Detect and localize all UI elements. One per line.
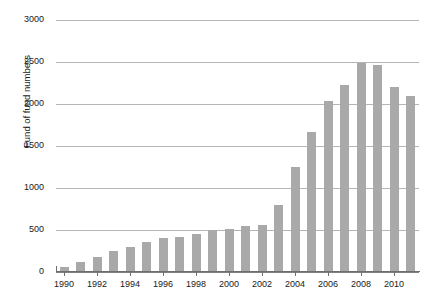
- bar: [274, 205, 283, 272]
- bar: [307, 132, 316, 272]
- x-axis-tick-label: 2004: [285, 279, 305, 289]
- bar: [406, 96, 415, 272]
- x-axis-tick-mark: [97, 272, 98, 276]
- x-axis-tick-mark: [394, 272, 395, 276]
- y-axis-tick-label: 3000: [24, 15, 44, 24]
- x-axis-tick-label: 1994: [120, 279, 140, 289]
- x-axis-tick-mark: [328, 272, 329, 276]
- x-axis-tick-label: 2002: [252, 279, 272, 289]
- bar: [192, 234, 201, 272]
- x-axis-tick-label: 1992: [87, 279, 107, 289]
- gridline: [56, 272, 419, 273]
- x-axis-line: [56, 271, 420, 272]
- y-axis-tick-label: 0: [39, 267, 44, 276]
- y-axis-tick-label: 1000: [24, 183, 44, 192]
- bar: [340, 85, 349, 272]
- x-axis-tick-mark: [262, 272, 263, 276]
- x-axis-tick-mark: [64, 272, 65, 276]
- y-axis-tick-labels: 050010001500200025003000: [0, 20, 48, 272]
- bar: [126, 247, 135, 272]
- bar: [208, 230, 217, 272]
- x-axis-tick-mark: [229, 272, 230, 276]
- bar-chart: Fund of fund numbers 0500100015002000250…: [0, 0, 425, 301]
- x-axis-tick-mark: [130, 272, 131, 276]
- bar: [109, 251, 118, 272]
- x-axis-tick-label: 1990: [54, 279, 74, 289]
- bar: [373, 65, 382, 272]
- bar: [225, 229, 234, 272]
- y-axis-tick-label: 2000: [24, 99, 44, 108]
- x-axis-tick-mark: [295, 272, 296, 276]
- bar: [291, 167, 300, 272]
- bar-series: [56, 20, 419, 272]
- bar: [357, 63, 366, 272]
- y-axis-tick-label: 1500: [24, 141, 44, 150]
- x-axis-tick-mark: [361, 272, 362, 276]
- bar: [241, 226, 250, 272]
- x-axis-tick-label: 2008: [351, 279, 371, 289]
- y-axis-tick-label: 2500: [24, 57, 44, 66]
- bar: [258, 225, 267, 272]
- bar: [142, 242, 151, 272]
- bar: [93, 257, 102, 272]
- x-axis-tick-mark: [196, 272, 197, 276]
- plot-area: [56, 20, 419, 272]
- x-axis-tick-label: 1998: [186, 279, 206, 289]
- x-axis-tick-label: 2000: [219, 279, 239, 289]
- x-axis-tick-label: 1996: [153, 279, 173, 289]
- bar: [324, 101, 333, 272]
- bar: [175, 237, 184, 272]
- y-axis-tick-label: 500: [29, 225, 44, 234]
- bar: [390, 87, 399, 272]
- bar: [159, 238, 168, 272]
- x-axis-tick-label: 2010: [384, 279, 404, 289]
- x-axis-tick-label: 2006: [318, 279, 338, 289]
- x-axis-tick-mark: [163, 272, 164, 276]
